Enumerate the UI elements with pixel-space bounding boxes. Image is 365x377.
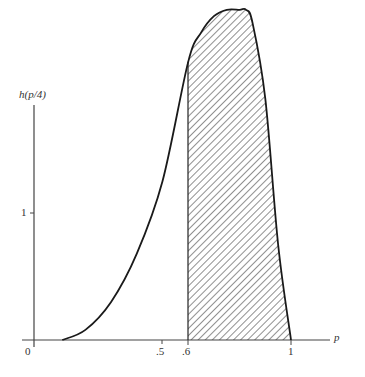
x-axis-label: p [334,331,340,343]
density-chart [0,0,365,377]
shaded-probability-region [62,9,291,340]
x-tick-label-1: 1 [288,345,294,357]
x-tick-label-0.5: .5 [156,345,164,357]
y-tick-label-1: 1 [21,206,27,218]
x-tick-label-0.6: .6 [182,345,190,357]
x-tick-label-0: 0 [25,345,31,357]
y-axis-label: h(p/4) [19,88,46,100]
